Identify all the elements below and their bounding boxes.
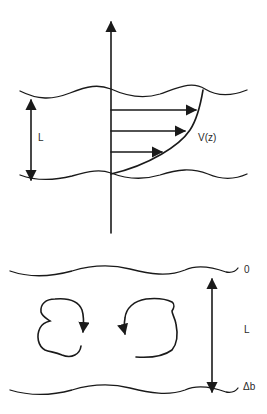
upper-boundary-wave bbox=[20, 85, 247, 98]
upper-boundary-wave-2 bbox=[10, 266, 238, 276]
bottom-panel: 0 L Δb bbox=[10, 264, 256, 395]
top-panel: L V(z) bbox=[20, 22, 247, 233]
surface-level-label: 0 bbox=[244, 264, 250, 275]
thickness-label-2: L bbox=[244, 324, 250, 335]
bottom-level-label: Δb bbox=[243, 381, 256, 392]
counterclockwise-eddy-icon bbox=[124, 299, 177, 358]
velocity-profile-curve bbox=[111, 90, 203, 174]
lower-boundary-wave bbox=[20, 170, 247, 180]
velocity-profile-label: V(z) bbox=[198, 132, 216, 143]
lower-boundary-wave-2 bbox=[10, 385, 238, 395]
diagram: L V(z) 0 L Δb bbox=[0, 0, 267, 414]
clockwise-eddy-icon bbox=[38, 299, 84, 357]
thickness-label: L bbox=[38, 132, 44, 143]
